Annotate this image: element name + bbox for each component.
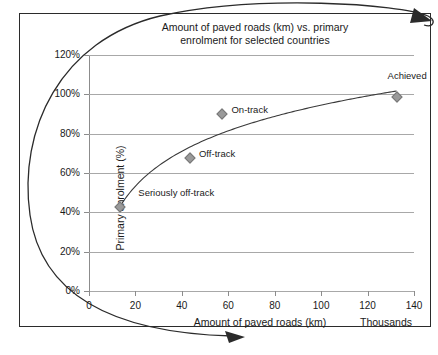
data-point-label: Off-track — [199, 148, 235, 159]
x-tick-label: 0 — [74, 300, 104, 311]
x-tick-mark — [368, 291, 369, 296]
y-tick-label: 120% — [36, 49, 80, 60]
y-tick-mark — [84, 134, 89, 135]
y-tick-mark — [84, 55, 89, 56]
x-tick-label: 100 — [306, 300, 336, 311]
y-tick-mark — [84, 173, 89, 174]
y-tick-mark — [84, 94, 89, 95]
x-tick-mark — [135, 291, 136, 296]
y-tick-label: 0% — [36, 285, 80, 296]
y-tick-label: 100% — [36, 88, 80, 99]
y-tick-mark — [84, 252, 89, 253]
x-tick-label: 20 — [120, 300, 150, 311]
y-tick-label: 60% — [36, 167, 80, 178]
y-tick-label: 40% — [36, 206, 80, 217]
x-tick-mark — [275, 291, 276, 296]
y-tick-label: 20% — [36, 246, 80, 257]
x-tick-label: 40 — [167, 300, 197, 311]
x-tick-label: 120 — [353, 300, 383, 311]
x-tick-label: 60 — [213, 300, 243, 311]
x-tick-mark — [321, 291, 322, 296]
chart-figure: Amount of paved roads (km) vs. primary e… — [0, 0, 438, 355]
data-point-label: Seriously off-track — [138, 187, 214, 198]
x-tick-mark — [228, 291, 229, 296]
data-point-label: Achieved — [388, 70, 427, 81]
x-tick-label: 140 — [399, 300, 429, 311]
x-tick-label: 80 — [260, 300, 290, 311]
x-tick-mark — [182, 291, 183, 296]
x-tick-mark — [89, 291, 90, 296]
x-tick-mark — [414, 291, 415, 296]
data-point-label: On-track — [231, 104, 267, 115]
y-tick-label: 80% — [36, 128, 80, 139]
y-tick-mark — [84, 212, 89, 213]
